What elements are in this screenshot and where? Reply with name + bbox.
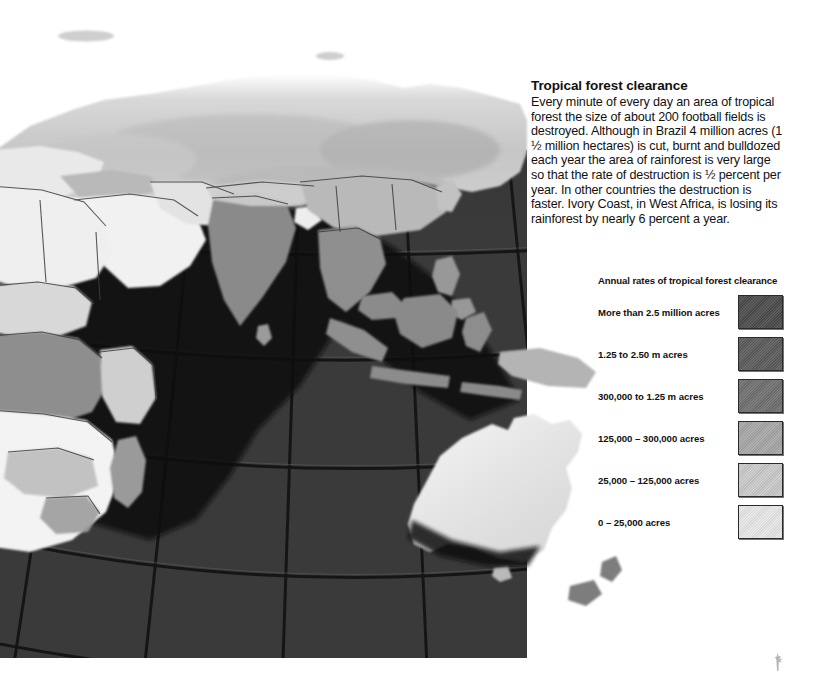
legend-swatch: [738, 337, 783, 371]
region-tasmania: [492, 566, 512, 582]
legend-item-label: 125,000 – 300,000 acres: [598, 433, 705, 444]
legend-item: More than 2.5 million acres: [598, 295, 833, 327]
legend-item-label: More than 2.5 million acres: [598, 307, 720, 318]
region-new-zealand-north: [600, 556, 622, 582]
region-arctic-island-b: [316, 52, 344, 60]
legend-item-label: 1.25 to 2.50 m acres: [598, 349, 688, 360]
legend-swatch: [738, 505, 783, 539]
legend-item: 125,000 – 300,000 acres: [598, 421, 833, 453]
article-panel: Tropical forest clearance Every minute o…: [531, 78, 783, 226]
legend-swatch: [738, 295, 783, 329]
legend: Annual rates of tropical forest clearanc…: [598, 275, 833, 547]
legend-swatch: [738, 379, 783, 413]
scan-artifact: [770, 650, 788, 672]
article-title: Tropical forest clearance: [531, 78, 783, 93]
legend-item: 1.25 to 2.50 m acres: [598, 337, 833, 369]
article-body: Every minute of every day an area of tro…: [531, 95, 783, 226]
legend-swatch: [738, 421, 783, 455]
legend-item-label: 300,000 to 1.25 m acres: [598, 391, 704, 402]
legend-item-label: 0 – 25,000 acres: [598, 517, 670, 528]
legend-item: 300,000 to 1.25 m acres: [598, 379, 833, 411]
legend-item-label: 25,000 – 125,000 acres: [598, 475, 699, 486]
region-new-guinea: [498, 348, 596, 388]
legend-title: Annual rates of tropical forest clearanc…: [598, 275, 833, 286]
legend-swatch: [738, 463, 783, 497]
legend-item: 25,000 – 125,000 acres: [598, 463, 833, 495]
region-new-zealand-south: [568, 580, 602, 606]
region-arctic-island-a: [58, 31, 114, 42]
legend-item: 0 – 25,000 acres: [598, 505, 833, 537]
